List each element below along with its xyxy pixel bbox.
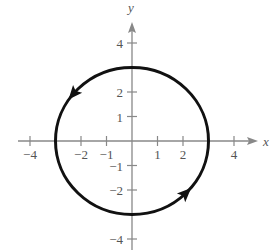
x-tick-label: 4 xyxy=(231,147,238,162)
y-tick-label: 1 xyxy=(117,110,124,125)
circle-diagram: −4−2−1124421−1−2−4 x y xyxy=(0,0,277,251)
y-tick-label: 4 xyxy=(117,36,124,51)
y-tick-label: −1 xyxy=(109,159,123,174)
x-tick-label: −2 xyxy=(74,147,88,162)
y-tick-label: −4 xyxy=(109,232,123,247)
x-tick-label: −4 xyxy=(23,147,37,162)
x-tick-label: 1 xyxy=(154,147,161,162)
x-axis-label: x xyxy=(262,134,269,149)
y-axis-label: y xyxy=(126,0,134,15)
diagram-canvas: −4−2−1124421−1−2−4 x y xyxy=(0,0,277,251)
y-tick-label: 2 xyxy=(117,85,124,100)
y-tick-label: −2 xyxy=(109,183,123,198)
x-tick-label: 2 xyxy=(180,147,187,162)
